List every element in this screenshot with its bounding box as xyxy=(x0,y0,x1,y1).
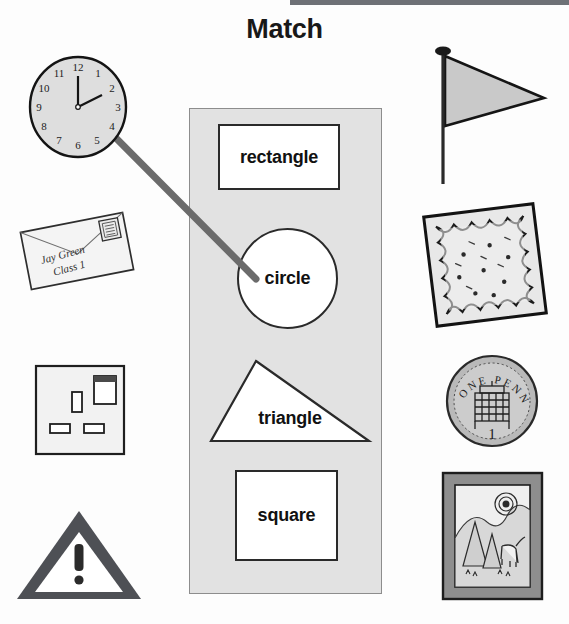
svg-text:11: 11 xyxy=(54,67,65,79)
svg-text:1: 1 xyxy=(95,67,101,79)
svg-text:4: 4 xyxy=(109,120,115,132)
svg-text:8: 8 xyxy=(41,120,47,132)
shape-label-rectangle: rectangle xyxy=(240,147,318,168)
power-socket-icon xyxy=(32,362,128,458)
shape-label-circle: circle xyxy=(265,268,311,289)
handkerchief-icon xyxy=(420,200,550,330)
shape-label-triangle: triangle xyxy=(258,408,321,428)
object-clock[interactable]: 12 1 2 3 4 5 6 7 8 9 10 11 xyxy=(26,52,130,160)
object-picture-frame[interactable] xyxy=(440,470,545,602)
svg-text:12: 12 xyxy=(73,61,84,73)
svg-text:9: 9 xyxy=(36,101,42,113)
object-warning-sign[interactable] xyxy=(14,508,144,602)
page-title: Match xyxy=(0,14,569,45)
svg-text:2: 2 xyxy=(109,82,115,94)
shape-card-circle[interactable]: circle xyxy=(237,228,338,329)
shape-card-rectangle[interactable]: rectangle xyxy=(218,124,340,190)
shape-card-triangle[interactable]: triangle xyxy=(208,358,372,444)
triangle-outline-icon xyxy=(208,358,372,444)
svg-text:5: 5 xyxy=(94,134,100,146)
object-socket[interactable] xyxy=(32,362,128,458)
shape-label-square: square xyxy=(258,505,316,526)
framed-picture-icon xyxy=(440,470,545,602)
object-coin[interactable]: ONE PENNY 1 xyxy=(444,353,540,450)
clock-icon: 12 1 2 3 4 5 6 7 8 9 10 11 xyxy=(26,52,130,160)
envelope-icon: Jay Green Class 1 xyxy=(16,205,138,297)
pennant-flag-icon xyxy=(424,44,548,186)
coin-value: 1 xyxy=(488,426,496,442)
shape-card-square[interactable]: square xyxy=(235,470,338,561)
warning-triangle-icon xyxy=(14,508,144,602)
object-cloth[interactable] xyxy=(420,200,550,330)
worksheet-page: Match rectangle circle triangle square 1… xyxy=(0,0,569,624)
object-envelope[interactable]: Jay Green Class 1 xyxy=(16,205,138,297)
penny-coin-icon: ONE PENNY 1 xyxy=(444,353,540,450)
object-flag[interactable] xyxy=(424,44,548,186)
svg-text:3: 3 xyxy=(115,101,121,113)
svg-text:6: 6 xyxy=(75,139,81,151)
top-bar xyxy=(290,0,569,5)
svg-text:7: 7 xyxy=(56,134,62,146)
svg-text:10: 10 xyxy=(39,82,51,94)
